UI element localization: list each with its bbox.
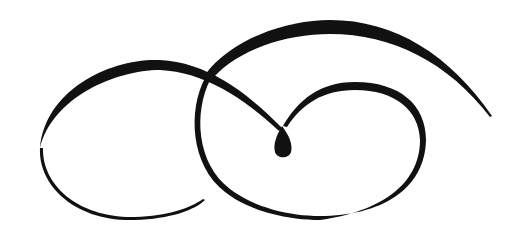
flourish-canvas [0,0,528,240]
center-teardrop [274,126,291,157]
right-loop-right-stroke [283,82,426,220]
left-loop-lower-stroke [40,148,205,220]
right-loop-left-stroke [195,78,320,220]
left-loop-upper-stroke [40,60,282,148]
calligraphic-flourish-icon [0,0,528,240]
